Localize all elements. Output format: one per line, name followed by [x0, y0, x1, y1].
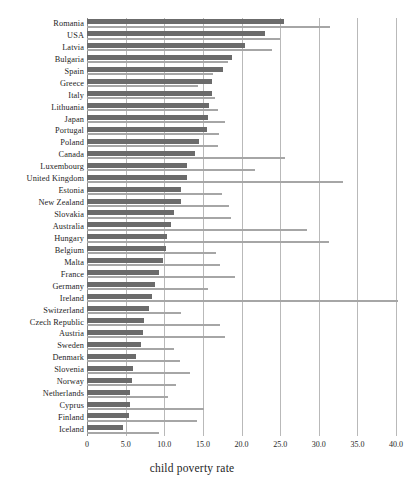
plot-area [87, 18, 396, 436]
y-axis-label: Poland [0, 138, 84, 147]
bar-primary [87, 222, 171, 227]
bar-row [87, 78, 396, 90]
bar-secondary [87, 324, 220, 326]
bar-secondary [87, 348, 174, 350]
bar-secondary [87, 312, 181, 314]
bar-row [87, 102, 396, 114]
bar-row [87, 30, 396, 42]
bar-row [87, 42, 396, 54]
bar-primary [87, 79, 212, 84]
y-axis-label: Australia [0, 222, 84, 231]
bar-primary [87, 425, 123, 430]
bar-row [87, 161, 396, 173]
bar-primary [87, 413, 129, 418]
bar-row [87, 281, 396, 293]
bar-secondary [87, 193, 222, 195]
y-axis-label: Malta [0, 258, 84, 267]
bar-secondary [87, 26, 330, 28]
y-axis-label: Finland [0, 413, 84, 422]
bar-row [87, 197, 396, 209]
bar-row [87, 424, 396, 436]
y-axis-label: Estonia [0, 186, 84, 195]
bar-row [87, 114, 396, 126]
bar-primary [87, 366, 133, 371]
y-axis-label: Iceland [0, 425, 84, 434]
bar-row [87, 18, 396, 30]
bar-primary [87, 318, 144, 323]
bar-secondary [87, 109, 218, 111]
bar-primary [87, 306, 149, 311]
bar-primary [87, 246, 166, 251]
bar-primary [87, 210, 174, 215]
bar-secondary [87, 384, 176, 386]
bar-primary [87, 139, 199, 144]
bar-primary [87, 330, 143, 335]
bar-row [87, 221, 396, 233]
bar-row [87, 305, 396, 317]
bar-row [87, 90, 396, 102]
y-axis-label: Sweden [0, 341, 84, 350]
bar-rows [87, 18, 396, 436]
bar-row [87, 125, 396, 137]
bar-primary [87, 378, 132, 383]
bar-row [87, 329, 396, 341]
bar-primary [87, 115, 208, 120]
bar-secondary [87, 157, 285, 159]
child-poverty-rate-chart: RomaniaUSALatviaBulgariaSpainGreeceItaly… [0, 0, 420, 489]
bar-secondary [87, 396, 168, 398]
bar-row [87, 412, 396, 424]
y-axis-label: Luxembourg [0, 162, 84, 171]
bar-secondary [87, 241, 329, 243]
y-axis-label: Cyprus [0, 401, 84, 410]
bar-primary [87, 67, 223, 72]
y-axis-label: Latvia [0, 43, 84, 52]
bar-secondary [87, 229, 307, 231]
bar-secondary [87, 300, 398, 302]
bar-primary [87, 270, 159, 275]
bar-secondary [87, 49, 272, 51]
bar-primary [87, 91, 212, 96]
bar-secondary [87, 121, 225, 123]
y-axis-label: Slovenia [0, 365, 84, 374]
bar-row [87, 233, 396, 245]
y-axis-label: Denmark [0, 353, 84, 362]
x-axis-tick-labels: 05.010.015.020.025.030.035.040.0 [87, 440, 396, 454]
x-axis-tick: 20.0 [235, 440, 249, 450]
bar-primary [87, 55, 232, 60]
y-axis-label: Belgium [0, 246, 84, 255]
bar-row [87, 293, 396, 305]
bar-row [87, 245, 396, 257]
bar-primary [87, 43, 245, 48]
x-axis-title: child poverty rate [0, 462, 420, 474]
bar-primary [87, 151, 195, 156]
y-axis-label: United Kingdom [0, 174, 84, 183]
y-axis-label: Czech Republic [0, 318, 84, 327]
bar-row [87, 376, 396, 388]
y-axis-label: Netherlands [0, 389, 84, 398]
bar-secondary [87, 133, 219, 135]
bar-row [87, 173, 396, 185]
bar-secondary [87, 145, 218, 147]
x-axis-tick: 0 [85, 440, 89, 450]
bar-secondary [87, 408, 204, 410]
bar-secondary [87, 85, 198, 87]
bar-secondary [87, 61, 228, 63]
x-axis-tick: 30.0 [312, 440, 326, 450]
bar-primary [87, 31, 265, 36]
bar-row [87, 209, 396, 221]
bar-row [87, 185, 396, 197]
y-axis-label: Austria [0, 329, 84, 338]
y-axis-labels: RomaniaUSALatviaBulgariaSpainGreeceItaly… [0, 18, 84, 436]
bar-primary [87, 234, 167, 239]
y-axis-label: Spain [0, 67, 84, 76]
bar-secondary [87, 420, 197, 422]
bar-primary [87, 127, 207, 132]
bar-primary [87, 294, 152, 299]
x-axis-tick: 5.0 [121, 440, 131, 450]
bar-secondary [87, 169, 255, 171]
y-axis-label: Portugal [0, 126, 84, 135]
x-axis-title-text: child poverty rate [150, 462, 235, 474]
bar-primary [87, 390, 130, 395]
bar-primary [87, 354, 136, 359]
gridline-40.0 [396, 18, 397, 436]
